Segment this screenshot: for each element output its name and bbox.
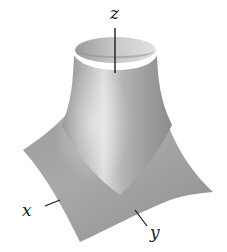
y-axis-label: y [149, 222, 160, 242]
x-axis-line [45, 200, 60, 206]
x-axis-label: x [22, 200, 32, 220]
surface-plot: z x y [0, 0, 227, 252]
z-axis-label: z [109, 3, 120, 23]
